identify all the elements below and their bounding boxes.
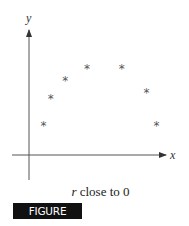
y-axis-label: y — [25, 11, 32, 25]
data-point-marker: * — [143, 86, 149, 100]
caption-text: close to 0 — [76, 184, 129, 199]
chart-caption: r close to 0 — [0, 184, 189, 200]
data-point-marker: * — [41, 119, 47, 133]
data-point-marker: * — [154, 119, 160, 133]
x-axis-label: x — [169, 148, 176, 162]
data-point-marker: * — [62, 74, 68, 88]
data-point-marker: * — [84, 62, 90, 76]
data-points: ******* — [41, 62, 160, 133]
data-point-marker: * — [119, 62, 125, 76]
data-point-marker: * — [48, 92, 54, 106]
figure-label: FIGURE 4.135 — [13, 203, 82, 219]
